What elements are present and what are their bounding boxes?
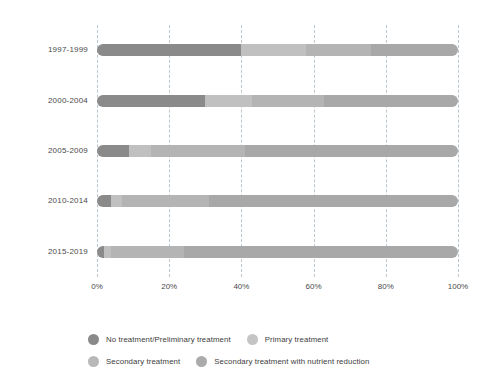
legend-swatch-icon (247, 334, 258, 345)
x-axis-tick-20: 20% (161, 282, 177, 291)
bar-track (97, 145, 458, 157)
legend-swatch-icon (88, 356, 99, 367)
y-axis-label-2010-2014: 2010-2014 (10, 196, 88, 205)
bar-row[interactable] (97, 246, 458, 258)
legend-item-no-treatment-preliminary-treatment[interactable]: No treatment/Preliminary treatment (88, 334, 231, 345)
bar-segment[interactable] (151, 145, 245, 157)
bar-segment[interactable] (111, 246, 183, 258)
legend-item-primary-treatment[interactable]: Primary treatment (247, 334, 329, 345)
legend-item-label: Primary treatment (265, 335, 329, 344)
legend-swatch-icon (88, 334, 99, 345)
bar-segment[interactable] (306, 44, 371, 56)
chart-legend: No treatment/Preliminary treatment Prima… (88, 328, 428, 372)
bar-segment[interactable] (104, 246, 111, 258)
bar-segment[interactable] (184, 246, 458, 258)
bar-row[interactable] (97, 95, 458, 107)
legend-item-label: Secondary treatment with nutrient reduct… (214, 357, 369, 366)
bar-segment[interactable] (324, 95, 458, 107)
y-axis-label-2015-2019: 2015-2019 (10, 247, 88, 256)
bar-segment[interactable] (205, 95, 252, 107)
y-axis-label-2005-2009: 2005-2009 (10, 146, 88, 155)
y-axis-label-1997-1999: 1997-1999 (10, 45, 88, 54)
bar-segment[interactable] (209, 195, 458, 207)
legend-swatch-icon (196, 356, 207, 367)
bar-segment[interactable] (111, 195, 122, 207)
plot-area (97, 25, 458, 277)
bar-segment[interactable] (97, 195, 111, 207)
legend-item-secondary-treatment[interactable]: Secondary treatment (88, 356, 180, 367)
bar-segment[interactable] (252, 95, 324, 107)
x-axis-tick-60: 60% (306, 282, 322, 291)
gridline-100 (458, 25, 459, 277)
legend-row-1: No treatment/Preliminary treatment Prima… (88, 328, 428, 350)
bar-segment[interactable] (129, 145, 151, 157)
x-axis-tick-80: 80% (378, 282, 394, 291)
legend-row-2: Secondary treatment Secondary treatment … (88, 350, 428, 372)
bar-track (97, 246, 458, 258)
bar-track (97, 95, 458, 107)
y-axis-label-2000-2004: 2000-2004 (10, 96, 88, 105)
bar-segment[interactable] (97, 44, 241, 56)
bar-segment[interactable] (97, 246, 104, 258)
bar-segment[interactable] (97, 145, 129, 157)
bar-row[interactable] (97, 44, 458, 56)
bar-row[interactable] (97, 195, 458, 207)
x-axis-tick-0: 0% (91, 282, 103, 291)
bar-segment[interactable] (97, 95, 205, 107)
x-axis-tick-labels: 0%20%40%60%80%100% (97, 282, 458, 300)
bar-segment[interactable] (241, 44, 306, 56)
bar-segment[interactable] (122, 195, 209, 207)
bar-track (97, 195, 458, 207)
x-axis-tick-40: 40% (233, 282, 249, 291)
legend-item-secondary-treatment-with-nutrient-reduction[interactable]: Secondary treatment with nutrient reduct… (196, 356, 369, 367)
bar-row[interactable] (97, 145, 458, 157)
stacked-bar-chart: 1997-19992000-20042005-20092010-20142015… (0, 0, 495, 392)
bar-segment[interactable] (371, 44, 458, 56)
bar-segment[interactable] (245, 145, 458, 157)
legend-item-label: No treatment/Preliminary treatment (106, 335, 231, 344)
x-axis-tick-100: 100% (448, 282, 468, 291)
y-axis-category-labels: 1997-19992000-20042005-20092010-20142015… (0, 25, 88, 277)
legend-item-label: Secondary treatment (106, 357, 180, 366)
bar-track (97, 44, 458, 56)
